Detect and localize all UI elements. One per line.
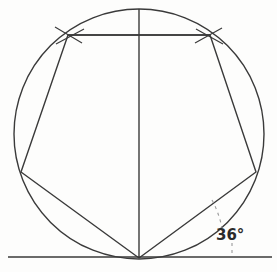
pentagon-construction-figure: 36°: [0, 0, 277, 272]
angle-arc-marker: [212, 200, 222, 228]
angle-label-36-degrees: 36°: [216, 228, 244, 243]
